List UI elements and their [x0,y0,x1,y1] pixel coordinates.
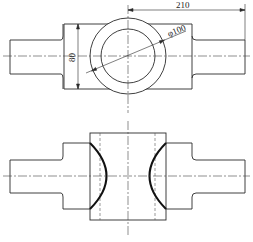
drawing-canvas: 210 80 φ100 [0,0,253,242]
right-shaft-top [192,36,245,78]
hidden-lines [100,133,155,220]
front-view [10,133,245,220]
left-shaft-top [10,24,63,89]
dimension-height-label: 80 [67,53,77,63]
centre-block-front [90,133,166,220]
front-centerlines [3,121,250,236]
dimension-length-label: 210 [176,0,190,10]
dimension-diameter-label: φ100 [166,22,188,38]
